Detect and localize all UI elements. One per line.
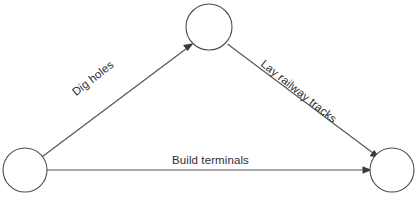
edge-build-terminals[interactable] <box>47 166 372 174</box>
edge-label-build-terminals: Build terminals <box>172 155 249 167</box>
node-start[interactable] <box>3 148 47 192</box>
diagram-canvas: Dig holes Lay railway tracks Build termi… <box>0 0 420 200</box>
node-top[interactable] <box>186 4 232 50</box>
diagram-graphics <box>0 0 420 200</box>
node-end[interactable] <box>370 148 414 192</box>
edge-dig-holes[interactable] <box>43 43 194 156</box>
edge-dig-holes-line <box>43 46 191 157</box>
